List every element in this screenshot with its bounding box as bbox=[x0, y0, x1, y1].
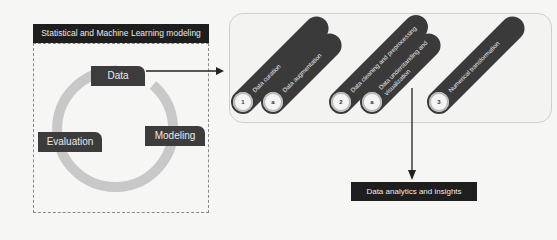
down-arrow-icon bbox=[406, 88, 418, 182]
output-box: Data analytics and insights bbox=[351, 182, 477, 201]
cycle-stage-modeling: Modeling bbox=[145, 126, 205, 146]
step-marker: a bbox=[362, 92, 382, 112]
step-marker: 1 bbox=[233, 92, 253, 112]
cycle-stage-evaluation: Evaluation bbox=[38, 132, 102, 152]
right-arrow-icon bbox=[140, 64, 226, 78]
modeling-panel-title: Statistical and Machine Learning modelin… bbox=[33, 24, 209, 43]
cycle-stage-data: Data bbox=[91, 66, 145, 86]
step-marker: a bbox=[263, 92, 283, 112]
step-marker: 3 bbox=[429, 92, 449, 112]
step-marker: 2 bbox=[331, 92, 351, 112]
